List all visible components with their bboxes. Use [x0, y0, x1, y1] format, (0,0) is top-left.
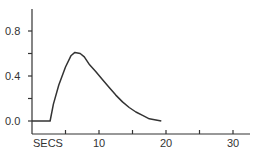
axes — [28, 9, 250, 134]
x-tick-label: 10 — [93, 137, 105, 149]
y-tick-label: 0.0 — [5, 115, 20, 127]
x-tick-label: 30 — [227, 137, 239, 149]
data-line — [32, 52, 161, 121]
axis-labels: 0.00.40.8102030 — [5, 25, 239, 149]
x-tick-label: 20 — [160, 137, 172, 149]
y-tick-label: 0.4 — [5, 70, 20, 82]
x-axis-title: SECS — [33, 137, 63, 149]
y-tick-label: 0.8 — [5, 25, 20, 37]
line-chart: 0.00.40.8102030 SECS — [0, 0, 258, 158]
